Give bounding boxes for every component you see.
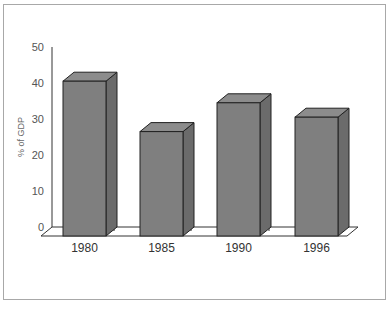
- x-tick-label: 1996: [303, 241, 330, 255]
- x-tick-label: 1990: [225, 241, 252, 255]
- y-tick-label: 10: [32, 185, 44, 197]
- y-tick-label: 20: [32, 149, 44, 161]
- y-tick-label: 0: [38, 221, 44, 233]
- y-tick-label: 50: [32, 41, 44, 53]
- y-tick-label: 30: [32, 113, 44, 125]
- y-axis-label: % of GDP: [16, 117, 26, 157]
- x-tick-label: 1980: [71, 241, 98, 255]
- bar-1990: [217, 94, 271, 236]
- y-tick-label: 40: [32, 77, 44, 89]
- bar-1980: [63, 72, 117, 236]
- bar-chart: 01020304050% of GDP1980198519901996: [0, 0, 392, 309]
- bar-1985: [140, 123, 194, 236]
- x-tick-label: 1985: [148, 241, 175, 255]
- bar-1996: [295, 108, 349, 236]
- bars: [63, 72, 349, 236]
